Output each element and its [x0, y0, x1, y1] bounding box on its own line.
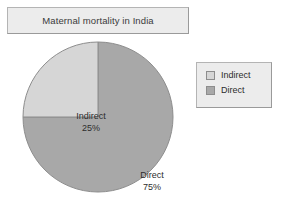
legend-item-indirect[interactable]: Indirect — [206, 70, 271, 80]
pie-label-direct-value: 75% — [122, 182, 182, 194]
chart-title-box: Maternal mortality in India — [7, 7, 189, 34]
pie-chart: Indirect 25% Direct 75% — [22, 41, 174, 193]
legend-swatch-indirect-icon — [206, 71, 215, 80]
pie-label-indirect-name: Indirect — [60, 111, 122, 123]
page-title: Maternal mortality in India — [42, 15, 153, 26]
chart-figure: Maternal mortality in India Indirect 25%… — [0, 0, 283, 204]
pie-label-direct-name: Direct — [122, 170, 182, 182]
pie-label-direct: Direct 75% — [122, 170, 182, 193]
legend-item-direct[interactable]: Direct — [206, 85, 271, 95]
legend-swatch-direct-icon — [206, 86, 215, 95]
legend-label-indirect: Indirect — [221, 70, 251, 80]
pie-label-indirect-value: 25% — [60, 123, 122, 135]
chart-legend: Indirect Direct — [196, 62, 272, 108]
legend-label-direct: Direct — [221, 85, 245, 95]
pie-slice-indirect — [23, 42, 98, 117]
pie-label-indirect: Indirect 25% — [60, 111, 122, 134]
